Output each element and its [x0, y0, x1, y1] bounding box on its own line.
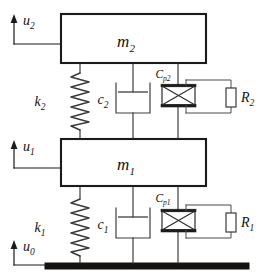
resistor-r1-body [226, 213, 236, 232]
mass-m1-group: m1 [61, 139, 206, 186]
ground-group [45, 263, 249, 269]
u1-label: u1 [23, 139, 35, 157]
displacement-u0-group: u0 [11, 239, 47, 265]
piezo-cp2-bottom-electrode [161, 104, 196, 107]
damper-c2-group: c2 [98, 63, 150, 139]
damper-c2-label: c2 [98, 92, 109, 110]
ground-bar [45, 263, 249, 269]
spring-k2-label: k2 [35, 94, 46, 112]
resistor-r2-label: R2 [240, 90, 255, 108]
u0-arrow-head [11, 240, 18, 249]
piezo-cp1-circuit-group: Cp1 R1 [155, 186, 254, 264]
u2-arrow-head [11, 14, 18, 23]
spring-k2-coil [71, 73, 89, 130]
piezo-cp2-circuit-group: Cp2 R2 [155, 63, 254, 139]
schematic-canvas: m2 m1 u2 u1 u0 [0, 0, 261, 277]
spring-k1-group: k1 [35, 186, 89, 264]
piezo-cp1-label: Cp1 [155, 192, 170, 207]
damper-c1-group: c1 [98, 186, 150, 264]
piezo-cp1-bottom-electrode [161, 229, 196, 232]
mass-m2-box [61, 14, 206, 63]
spring-k2-group: k2 [35, 63, 89, 139]
u0-label: u0 [23, 239, 35, 257]
mass-m1-box [61, 139, 206, 186]
u2-label: u2 [23, 13, 35, 31]
piezo-cp2-top-electrode [161, 84, 196, 87]
mass-m2-group: m2 [61, 14, 206, 63]
displacement-u1-group: u1 [11, 139, 61, 168]
displacement-u2-group: u2 [11, 13, 61, 44]
resistor-r2-body [226, 88, 236, 107]
piezo-cp2-label: Cp2 [155, 68, 170, 83]
resistor-r1-label: R1 [240, 215, 254, 233]
u1-arrow-head [11, 140, 18, 149]
damper-c1-label: c1 [98, 217, 109, 235]
piezo-cp1-top-electrode [161, 209, 196, 212]
spring-k1-label: k1 [35, 220, 46, 238]
schematic-diagram: m2 m1 u2 u1 u0 [0, 0, 261, 277]
spring-k1-coil [71, 199, 89, 256]
